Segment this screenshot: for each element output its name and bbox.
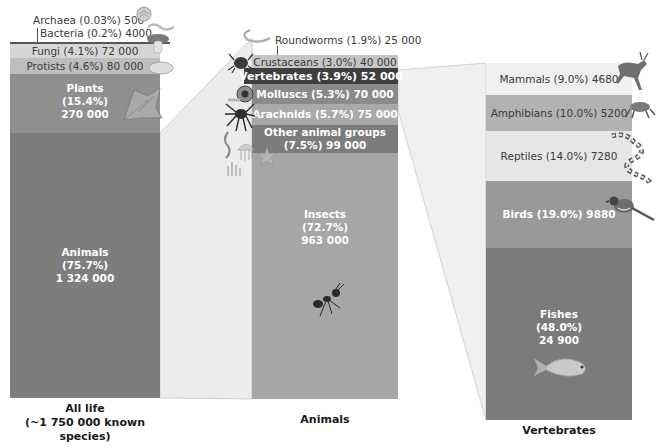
segment-fungi: Fungi (4.1%) 72 000 xyxy=(10,44,160,58)
ant-icon xyxy=(310,282,346,318)
caption-all-life: All life (~1 750 000 known species) xyxy=(0,402,170,444)
crab-icon xyxy=(228,50,254,74)
mushroom-icon xyxy=(146,32,170,56)
segment-insects: Insects (72.7%) 963 000 xyxy=(252,153,398,399)
animals-bar: Crustaceans (3.0%) 40 000 Vertebrates (3… xyxy=(252,55,398,399)
jellyfish-icon xyxy=(236,140,256,162)
segment-crustaceans: Crustaceans (3.0%) 40 000 xyxy=(252,55,398,68)
vertebrates-connector xyxy=(398,63,486,420)
roundworm-icon xyxy=(240,26,274,46)
roundworms-leader-line xyxy=(277,46,278,55)
starfish-icon xyxy=(256,146,278,166)
segment-amphibians: Amphibians (10.0%) 5200 xyxy=(486,95,632,131)
frog-icon xyxy=(626,97,656,119)
label-roundworms: Roundworms (1.9%) 25 000 xyxy=(275,34,421,46)
segment-animals: Animals (75.7%) 1 324 000 xyxy=(10,133,160,398)
bacteria-leader-line xyxy=(37,28,38,42)
segment-arachnids: Arachnids (5.7%) 75 000 xyxy=(252,104,398,125)
segment-mammals: Mammals (9.0%) 4680 xyxy=(486,63,632,95)
spider-icon xyxy=(224,100,256,132)
segment-vertebrates: Vertebrates (3.9%) 52 000 xyxy=(244,68,398,84)
snake-icon xyxy=(610,132,656,186)
bird-icon xyxy=(606,194,656,224)
coral-icon xyxy=(224,160,244,176)
segment-fishes: Fishes (48.0%) 24 900 xyxy=(486,248,632,420)
archaea-icon xyxy=(136,6,152,22)
deer-icon xyxy=(614,50,650,92)
segment-molluscs: Molluscs (5.3%) 70 000 xyxy=(252,84,398,104)
leaf-icon xyxy=(118,82,164,126)
fish-icon xyxy=(532,352,592,382)
label-archaea: Archaea (0.03%) 500 xyxy=(33,14,144,26)
label-bacteria: Bacteria (0.2%) 4000 xyxy=(40,27,152,39)
caption-animals: Animals xyxy=(252,413,398,427)
caption-vertebrates: Vertebrates xyxy=(486,424,632,438)
segment-protists: Protists (4.6%) 80 000 xyxy=(10,58,160,74)
bacteria-icon xyxy=(146,22,176,32)
worm-icon xyxy=(222,130,234,160)
protist-icon xyxy=(148,60,174,76)
